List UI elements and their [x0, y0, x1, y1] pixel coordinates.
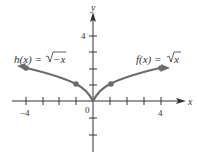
x-tick-label-pos4: 4 [158, 108, 163, 118]
curve-f [93, 67, 164, 101]
label-h: h(x) = −x [14, 52, 66, 66]
svg-text:h(x) =: h(x) = [14, 53, 42, 66]
curve-h [22, 67, 93, 101]
origin-label: 0 [85, 105, 90, 115]
svg-text:−x: −x [53, 53, 65, 65]
point-h-neg4 [23, 65, 29, 71]
point-f-4 [158, 65, 164, 71]
x-tick-label-neg4: −4 [20, 108, 30, 118]
point-h-neg1 [73, 81, 79, 87]
label-f: f(x) = x [136, 52, 181, 66]
svg-text:f(x) =: f(x) = [136, 53, 161, 66]
x-axis-label: x [187, 96, 193, 107]
svg-text:x: x [173, 53, 179, 65]
graph: y x 0 −4 4 4 h(x) = −x f(x) = x [0, 0, 197, 159]
y-tick-label-pos4: 4 [81, 31, 86, 41]
point-f-1 [108, 81, 114, 87]
y-axis-label: y [90, 2, 96, 13]
